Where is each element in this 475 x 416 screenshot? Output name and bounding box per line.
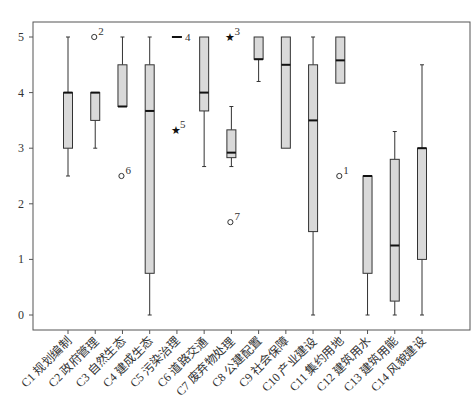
box-iqr	[91, 93, 100, 121]
box-12	[363, 176, 372, 315]
y-tick-label: 1	[18, 252, 24, 266]
box-2: 2	[91, 25, 104, 148]
box-6	[200, 37, 209, 167]
box-iqr	[254, 37, 263, 59]
y-axis: 012345	[18, 30, 33, 322]
y-tick-label: 4	[18, 86, 24, 100]
box-iqr	[200, 37, 209, 111]
box-13	[390, 132, 399, 315]
y-tick-label: 5	[18, 30, 24, 44]
box-1	[64, 37, 73, 176]
box-4	[145, 37, 154, 315]
box-8	[254, 37, 263, 81]
box-series: 264★5★371	[64, 25, 427, 315]
point-label: 7	[234, 210, 240, 222]
y-tick-label: 2	[18, 197, 24, 211]
box-plot-chart: 012345 C1 规划编制C2 政府管理C3 自然生态C4 建成生态C5 污染…	[0, 0, 475, 416]
plot-frame	[33, 22, 470, 330]
box-14	[418, 65, 427, 315]
outlier-circle-icon	[92, 34, 97, 39]
box-9	[281, 37, 290, 148]
box-10	[309, 37, 318, 315]
point-label: 4	[185, 31, 191, 43]
box-5: 4★5	[171, 31, 191, 136]
point-label: 6	[125, 164, 131, 176]
box-iqr	[64, 93, 73, 149]
outlier-circle-icon	[119, 173, 124, 178]
point-label: 1	[343, 164, 349, 176]
y-tick-label: 0	[18, 308, 24, 322]
point-label: 5	[180, 118, 186, 130]
box-11: 1	[336, 37, 349, 179]
plot-border	[33, 22, 470, 330]
outlier-circle-icon	[337, 173, 342, 178]
box-iqr	[145, 65, 154, 273]
x-axis: C1 规划编制C2 政府管理C3 自然生态C4 建成生态C5 污染治理C6 道路…	[18, 330, 429, 399]
box-iqr	[363, 176, 372, 273]
box-iqr	[418, 148, 427, 259]
box-iqr	[309, 65, 318, 232]
box-iqr	[390, 159, 399, 301]
box-3: 6	[118, 37, 132, 179]
point-label: 3	[234, 25, 240, 37]
box-7: ★37	[225, 25, 240, 225]
box-iqr	[118, 65, 127, 107]
box-iqr	[281, 37, 290, 148]
outlier-circle-icon	[228, 220, 233, 225]
y-tick-label: 3	[18, 141, 24, 155]
point-label: 2	[98, 25, 104, 37]
